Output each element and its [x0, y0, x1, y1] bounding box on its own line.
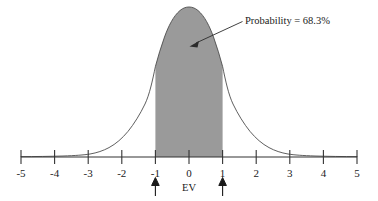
- x-tick-label-3: 3: [277, 167, 303, 179]
- x-tick-label-4: 4: [310, 167, 336, 179]
- x-tick-label--5: -5: [8, 167, 34, 179]
- x-tick-label--1: -1: [142, 167, 168, 179]
- x-tick-label--3: -3: [75, 167, 101, 179]
- probability-annotation-label: Probability = 68.3%: [245, 15, 330, 27]
- shaded-probability-region: [155, 7, 222, 157]
- upper-bound-arrow: [219, 178, 227, 197]
- x-axis-title: EV: [169, 182, 209, 194]
- probability-distribution-figure: -5 -4 -3 -2 -1 0 1 2 3 4 5 EV Probabilit…: [0, 0, 378, 201]
- x-tick-label-1: 1: [210, 167, 236, 179]
- x-tick-label-5: 5: [344, 167, 370, 179]
- x-tick-label-0: 0: [176, 167, 202, 179]
- lower-bound-arrow: [152, 178, 160, 197]
- x-tick-label--2: -2: [109, 167, 135, 179]
- x-tick-label--4: -4: [42, 167, 68, 179]
- x-tick-label-2: 2: [243, 167, 269, 179]
